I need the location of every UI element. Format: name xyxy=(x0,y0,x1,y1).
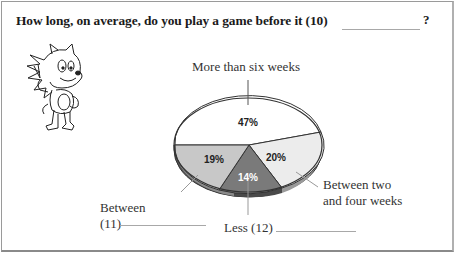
label-between-two-and-four-weeks-1: Between two xyxy=(323,177,391,192)
svg-text:14%: 14% xyxy=(238,172,258,183)
svg-text:19%: 19% xyxy=(204,154,224,165)
label-between-11-1: Between xyxy=(100,200,145,215)
label-between-11-2: (11) xyxy=(100,216,121,231)
svg-text:47%: 47% xyxy=(238,117,258,128)
label-more-than-six-weeks: More than six weeks xyxy=(192,59,300,74)
svg-text:20%: 20% xyxy=(266,152,286,163)
label-between-two-and-four-weeks-2: and four weeks xyxy=(323,193,402,208)
answer-blank-11 xyxy=(120,225,206,226)
label-less-12: Less (12) xyxy=(224,220,273,235)
answer-blank-12 xyxy=(276,231,356,232)
